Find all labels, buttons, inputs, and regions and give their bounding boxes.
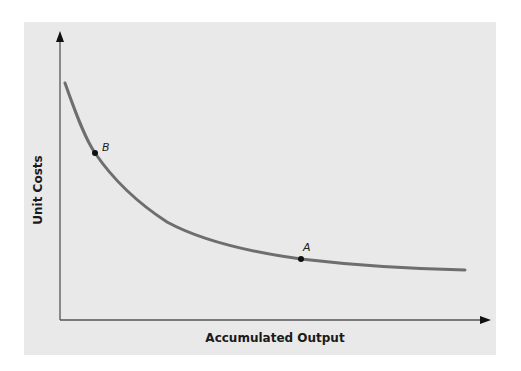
x-axis-label: Accumulated Output	[205, 331, 344, 345]
experience-curve	[65, 83, 465, 270]
x-axis-arrow-icon	[480, 316, 491, 324]
point-b-marker	[92, 150, 98, 156]
point-a-marker	[298, 256, 304, 262]
experience-curve-chart	[0, 0, 521, 371]
point-a-label: A	[303, 241, 311, 254]
y-axis-label: Unit Costs	[31, 155, 45, 224]
y-axis-arrow-icon	[56, 31, 64, 42]
point-b-label: B	[102, 141, 110, 154]
